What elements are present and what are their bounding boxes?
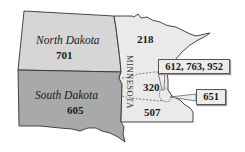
callout-612-763-952: 612, 763, 952 — [158, 59, 230, 74]
north-dakota-name: North Dakota — [36, 34, 100, 46]
south-dakota-name: South Dakota — [35, 89, 98, 101]
area-code-507: 507 — [144, 106, 161, 118]
minnesota-label: MINNESOTA — [125, 55, 135, 109]
area-code-218: 218 — [137, 33, 154, 45]
north-dakota-code: 701 — [56, 49, 73, 61]
area-code-map — [0, 0, 245, 152]
callout-651: 651 — [196, 89, 226, 105]
area-code-320: 320 — [143, 81, 160, 93]
south-dakota-code: 605 — [67, 104, 84, 116]
